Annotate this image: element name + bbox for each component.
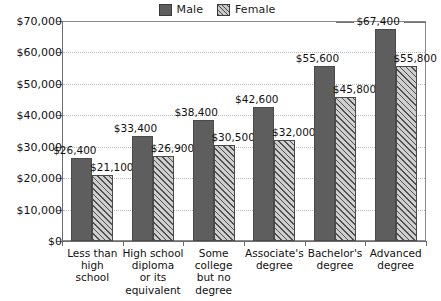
leader-dash-left bbox=[336, 22, 354, 23]
legend-swatch-male-icon bbox=[159, 4, 172, 16]
y-tick-label: $70,000 bbox=[6, 16, 62, 27]
x-tick-mark bbox=[62, 241, 63, 246]
leader-dash-right bbox=[404, 22, 426, 23]
x-tick-mark bbox=[244, 241, 245, 246]
bar-female bbox=[92, 175, 113, 241]
value-label-male: $38,400 bbox=[168, 107, 224, 118]
legend-label-male: Male bbox=[177, 4, 203, 16]
legend-label-female: Female bbox=[235, 4, 275, 16]
y-tick-label: $60,000 bbox=[6, 47, 62, 58]
y-tick-label: $10,000 bbox=[6, 204, 62, 215]
x-tick-mark bbox=[123, 241, 124, 246]
x-category-label: Advanceddegree bbox=[360, 247, 431, 271]
value-label-male: $26,400 bbox=[47, 145, 103, 156]
y-tick-label: $40,000 bbox=[6, 110, 62, 121]
value-label-male: $33,400 bbox=[108, 123, 164, 134]
bar-female bbox=[153, 156, 174, 241]
bar-female bbox=[274, 140, 295, 241]
legend-entry-female: Female bbox=[217, 4, 275, 16]
legend-entry-male: Male bbox=[159, 4, 203, 16]
bar-female bbox=[335, 97, 356, 241]
value-label-female: $55,800 bbox=[387, 53, 441, 64]
x-category-line: degree bbox=[178, 284, 249, 296]
value-label-male: $55,600 bbox=[290, 53, 346, 64]
y-tick-label: $20,000 bbox=[6, 173, 62, 184]
value-label-male: $42,600 bbox=[229, 94, 285, 105]
value-label-male: $67,400 bbox=[350, 16, 406, 27]
bars-layer: $26,400$21,100$33,400$26,900$38,400$30,5… bbox=[62, 21, 426, 241]
y-tick-label: $0 bbox=[6, 236, 62, 247]
x-category-line: but no bbox=[178, 271, 249, 283]
x-tick-mark bbox=[305, 241, 306, 246]
legend-swatch-female-icon bbox=[217, 4, 230, 16]
x-axis-category-labels: Less thanhighschoolHigh schooldiplomaor … bbox=[62, 247, 428, 301]
x-tick-mark bbox=[183, 241, 184, 246]
bar-female bbox=[396, 66, 417, 241]
x-category-line: degree bbox=[360, 259, 431, 271]
x-category-line: Advanced bbox=[360, 247, 431, 259]
x-tick-mark bbox=[426, 241, 427, 246]
bar-female bbox=[214, 145, 235, 241]
x-tick-mark bbox=[365, 241, 366, 246]
y-tick-label: $50,000 bbox=[6, 78, 62, 89]
